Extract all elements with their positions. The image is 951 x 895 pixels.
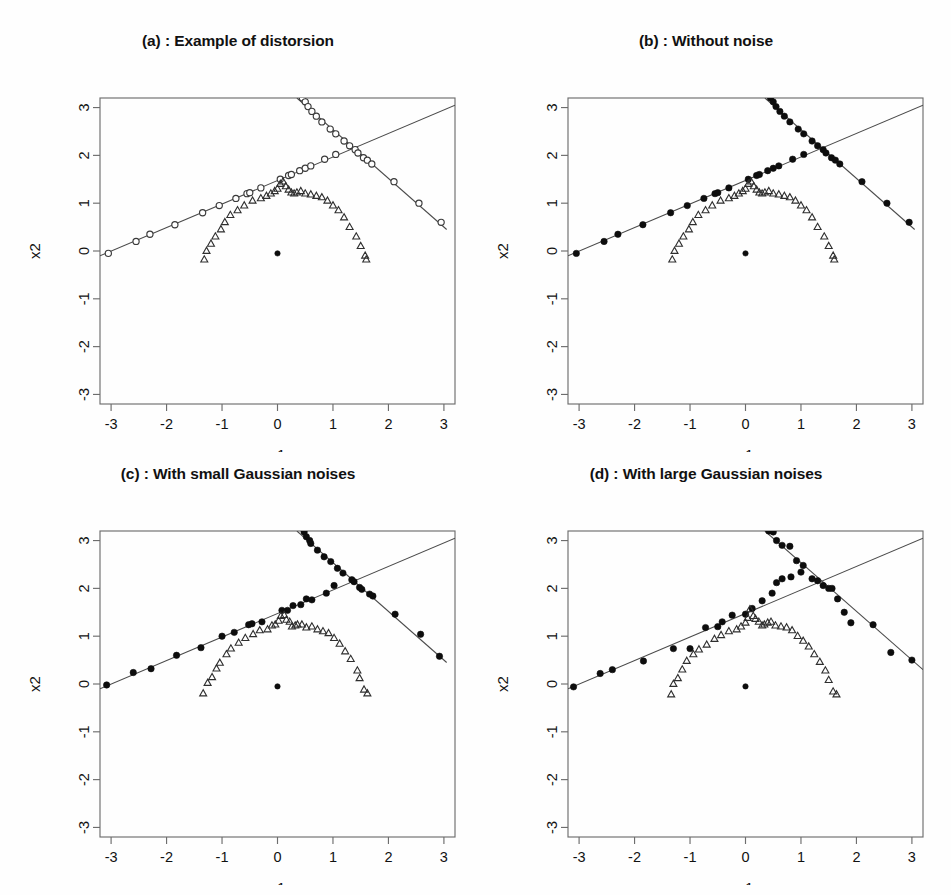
data-point (307, 191, 314, 197)
y-tick-label: 1 (76, 632, 92, 640)
x-tick-label: 2 (852, 416, 860, 432)
y-tick-label: 3 (76, 104, 92, 112)
x-tick-label: 3 (440, 416, 448, 432)
data-point (906, 219, 912, 225)
data-point (779, 576, 785, 582)
data-point (814, 143, 820, 149)
y-tick-label: 2 (544, 151, 560, 159)
panel-a-title: (a) : Example of distorsion (0, 32, 476, 50)
panel-b-plot: -3-2-10123-3-2-10123x1x2 (468, 52, 944, 452)
data-point (200, 210, 206, 216)
data-point (671, 247, 678, 253)
data-point (770, 529, 776, 535)
data-point (392, 611, 398, 617)
data-point (773, 579, 779, 585)
data-point (203, 247, 210, 253)
data-point (340, 570, 346, 576)
data-point (308, 540, 314, 546)
data-point (327, 126, 333, 132)
data-point (776, 163, 782, 169)
data-point (133, 238, 139, 244)
x-tick-label: 0 (741, 849, 749, 865)
data-point (811, 651, 818, 657)
x-tick-label: 3 (440, 849, 448, 865)
data-point (726, 185, 732, 191)
x-tick-label: 1 (329, 849, 337, 865)
data-point (795, 126, 801, 132)
data-point (275, 251, 280, 256)
data-point (234, 207, 241, 213)
panel-b: (b) : Without noise -3-2-10123-3-2-10123… (468, 22, 944, 452)
arc-triangles (200, 611, 371, 696)
data-point (130, 669, 136, 675)
data-point (801, 131, 807, 137)
data-point (207, 240, 214, 246)
data-point (216, 202, 222, 208)
data-point (689, 218, 696, 224)
data-point (341, 214, 348, 220)
data-point (668, 691, 675, 697)
data-point (789, 156, 795, 162)
data-point (814, 223, 821, 229)
data-point (438, 219, 444, 225)
panel-c-plot: -3-2-10123-3-2-10123x1x2 (0, 485, 476, 885)
panel-a: (a) : Example of distorsion -3-2-10123-3… (0, 22, 476, 452)
data-point (331, 582, 337, 588)
y-tick-label: 3 (544, 104, 560, 112)
data-point (369, 161, 375, 167)
data-point (247, 190, 253, 196)
data-point (798, 569, 804, 575)
data-point (601, 238, 607, 244)
x-tick-label: -1 (216, 849, 229, 865)
data-point (333, 131, 339, 137)
data-point (640, 658, 646, 664)
data-point (709, 202, 716, 208)
data-point (719, 619, 725, 625)
arc-triangles (201, 178, 370, 262)
panel-b-title: (b) : Without noise (468, 32, 944, 50)
x-tick-label: -3 (573, 849, 586, 865)
y-tick-label: -3 (76, 388, 92, 401)
arc-triangles (668, 606, 840, 697)
data-point (173, 652, 179, 658)
y-tick-label: 0 (544, 680, 560, 688)
branch-1-open-circles (105, 151, 339, 256)
data-point (801, 151, 807, 157)
data-point (711, 635, 718, 641)
data-point (231, 629, 237, 635)
data-point (416, 200, 422, 206)
data-point (342, 648, 349, 654)
data-point (787, 119, 793, 125)
data-point (809, 138, 815, 144)
data-point (570, 684, 576, 690)
data-point (674, 674, 681, 680)
data-point (198, 644, 204, 650)
panel-d: (d) : With large Gaussian noises -3-2-10… (468, 455, 944, 885)
data-point (703, 641, 710, 647)
data-point (702, 624, 708, 630)
data-point (221, 218, 228, 224)
data-point (298, 601, 304, 607)
origin-point (275, 684, 280, 689)
x-tick-label: -3 (105, 849, 118, 865)
y-tick-label: -3 (544, 388, 560, 401)
y-tick-label: -3 (544, 821, 560, 834)
data-point (308, 623, 315, 629)
data-point (729, 612, 735, 618)
y-tick-label: 1 (76, 199, 92, 207)
data-point (738, 623, 745, 629)
y-tick-label: -2 (76, 773, 92, 786)
data-point (597, 670, 603, 676)
data-point (822, 667, 829, 673)
data-point (259, 619, 265, 625)
data-point (573, 250, 579, 256)
data-point (725, 628, 732, 634)
data-point (256, 627, 263, 633)
y-tick-label: -2 (76, 340, 92, 353)
data-point (258, 185, 264, 191)
data-point (147, 231, 153, 237)
data-point (249, 197, 256, 203)
data-point (759, 598, 765, 604)
data-point (814, 578, 820, 584)
data-point (769, 590, 775, 596)
